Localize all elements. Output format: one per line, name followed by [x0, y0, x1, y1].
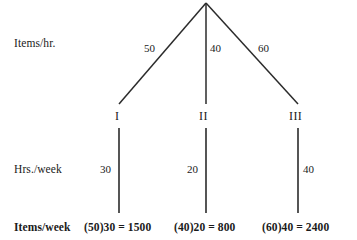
result-node-1: (50)30 = 1500 — [84, 222, 151, 234]
edge-apex-to-node-1 — [119, 3, 206, 104]
stem-value-node-1: 30 — [100, 164, 111, 175]
edge-value-node-3: 60 — [258, 43, 269, 54]
node-label-1: I — [115, 110, 119, 122]
edge-value-node-1: 50 — [144, 43, 155, 54]
diagram-canvas: Items/hr. Hrs./week Items/week 50 40 60 … — [0, 0, 357, 240]
edge-value-node-2: 40 — [210, 43, 221, 54]
stem-value-node-3: 40 — [303, 164, 314, 175]
result-node-2: (40)20 = 800 — [174, 222, 235, 234]
tree-edges — [0, 0, 357, 240]
row-label-hours-per-week: Hrs./week — [14, 164, 62, 176]
stem-value-node-2: 20 — [187, 164, 198, 175]
row-label-items-per-week: Items/week — [14, 222, 71, 234]
node-label-3: III — [289, 110, 302, 122]
node-label-2: II — [199, 110, 208, 122]
row-label-items-per-hour: Items/hr. — [14, 38, 55, 50]
result-node-3: (60)40 = 2400 — [262, 222, 329, 234]
